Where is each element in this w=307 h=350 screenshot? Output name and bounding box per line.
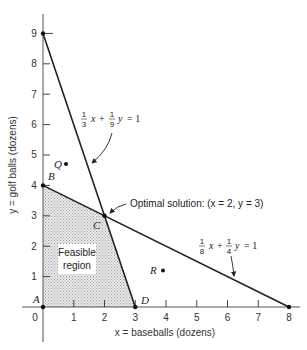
point-r-marker <box>161 269 165 273</box>
svg-text:9: 9 <box>110 120 115 129</box>
constraint-2-equation: 1 8 x + 1 4 y = 1 <box>199 237 257 256</box>
svg-text:1: 1 <box>110 110 115 119</box>
y-axis-tick-labels: 1 2 3 4 5 6 7 8 9 <box>31 28 37 282</box>
svg-text:6: 6 <box>225 312 231 323</box>
optimal-solution-arrow <box>110 204 126 213</box>
svg-text:1: 1 <box>227 237 232 246</box>
point-a-label: A <box>32 293 40 305</box>
point-b-label: B <box>48 170 55 182</box>
svg-text:0: 0 <box>32 312 38 323</box>
svg-text:1: 1 <box>200 237 205 246</box>
x-intercept-8-marker <box>287 305 291 309</box>
y-axis-title: y = golf balls (dozens) <box>7 116 18 214</box>
svg-text:3: 3 <box>31 210 37 221</box>
optimal-solution-label: Optimal solution: (x = 2, y = 3) <box>130 198 263 209</box>
point-d-marker <box>133 305 137 309</box>
constraint-2-pointer-arrow <box>231 256 234 276</box>
constraint-1-pointer-arrow <box>92 133 112 163</box>
point-a-marker <box>41 305 45 309</box>
point-c-marker <box>102 214 106 218</box>
svg-text:3: 3 <box>132 312 138 323</box>
svg-text:8: 8 <box>31 58 37 69</box>
svg-text:+: + <box>99 113 105 124</box>
point-r-label: R <box>149 264 157 276</box>
svg-text:6: 6 <box>31 119 37 130</box>
lp-feasible-region-diagram: Feasible region 1 2 3 4 5 6 7 8 9 0 <box>0 0 307 350</box>
svg-text:9: 9 <box>31 28 37 39</box>
point-q-label: Q <box>54 158 62 170</box>
svg-text:7: 7 <box>31 89 37 100</box>
svg-text:5: 5 <box>31 149 37 160</box>
point-d-label: D <box>140 294 149 306</box>
feasible-region-label-line1: Feasible <box>58 247 96 258</box>
svg-text:1: 1 <box>31 271 37 282</box>
point-q-marker <box>64 162 68 166</box>
svg-text:y: y <box>117 113 123 124</box>
svg-text:7: 7 <box>255 312 261 323</box>
svg-text:8: 8 <box>286 312 292 323</box>
svg-text:x: x <box>90 113 96 124</box>
svg-text:4: 4 <box>227 247 232 256</box>
svg-text:3: 3 <box>82 120 87 129</box>
point-b-marker <box>41 183 45 187</box>
svg-text:8: 8 <box>200 247 205 256</box>
svg-text:x: x <box>208 240 214 251</box>
feasible-region-label-line2: region <box>63 260 91 271</box>
svg-text:4: 4 <box>31 180 37 191</box>
svg-text:y: y <box>234 240 240 251</box>
x-axis-title: x = baseballs (dozens) <box>115 327 215 338</box>
svg-text:1: 1 <box>71 312 77 323</box>
svg-text:= 1: = 1 <box>127 113 140 124</box>
svg-text:= 1: = 1 <box>244 240 257 251</box>
svg-text:2: 2 <box>31 241 37 252</box>
svg-text:2: 2 <box>102 312 108 323</box>
y-intercept-9-marker <box>41 31 45 35</box>
x-axis-tick-labels: 0 1 2 3 4 5 6 7 8 <box>32 312 292 323</box>
svg-text:1: 1 <box>82 110 87 119</box>
svg-text:+: + <box>217 240 223 251</box>
constraint-1-equation: 1 3 x + 1 9 y = 1 <box>81 110 140 129</box>
svg-text:4: 4 <box>163 312 169 323</box>
point-c-label: C <box>93 219 101 231</box>
svg-text:5: 5 <box>194 312 200 323</box>
